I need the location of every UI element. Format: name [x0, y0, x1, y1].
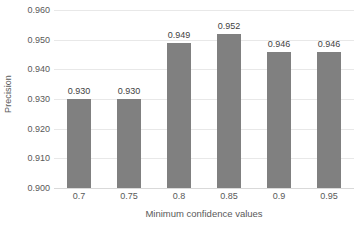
bar-group[interactable]: 0.946 — [304, 10, 354, 188]
x-axis-tick-label: 0.7 — [73, 190, 86, 202]
bar[interactable] — [167, 43, 191, 188]
y-axis-tick-label: 0.940 — [27, 64, 50, 74]
bar-value-label: 0.946 — [318, 39, 341, 49]
bar[interactable] — [217, 34, 241, 188]
x-axis-title: Minimum confidence values — [54, 208, 354, 219]
bar-group[interactable]: 0.930 — [54, 10, 104, 188]
x-axis-tick-label: 0.8 — [173, 190, 186, 202]
x-axis-tick-label: 0.9 — [273, 190, 286, 202]
bar-value-label: 0.949 — [168, 30, 191, 40]
bar[interactable] — [67, 99, 91, 188]
y-axis-tick-label: 0.900 — [27, 183, 50, 193]
bar-chart: Precision 0.9600.9500.9400.9300.9200.910… — [0, 0, 364, 228]
bar[interactable] — [317, 52, 341, 188]
y-axis-tick-label: 0.920 — [27, 124, 50, 134]
bars-layer: 0.9300.9300.9490.9520.9460.946 — [54, 10, 354, 188]
bar-group[interactable]: 0.952 — [204, 10, 254, 188]
gridline — [54, 188, 354, 189]
y-axis-tick-labels: 0.9600.9500.9400.9300.9200.9100.900 — [14, 0, 52, 188]
bar[interactable] — [117, 99, 141, 188]
x-axis-tick-label: 0.85 — [220, 190, 238, 202]
y-axis-tick-label: 0.950 — [27, 35, 50, 45]
bar-value-label: 0.946 — [268, 39, 291, 49]
bar-group[interactable]: 0.946 — [254, 10, 304, 188]
bar-value-label: 0.930 — [118, 86, 141, 96]
bar-group[interactable]: 0.930 — [104, 10, 154, 188]
bar-value-label: 0.952 — [218, 21, 241, 31]
y-axis-title-text: Precision — [3, 75, 13, 113]
plot-area: 0.9300.9300.9490.9520.9460.946 — [54, 10, 354, 188]
bar[interactable] — [267, 52, 291, 188]
x-axis-tick-label: 0.95 — [320, 190, 338, 202]
bar-value-label: 0.930 — [68, 86, 91, 96]
y-axis-tick-label: 0.930 — [27, 94, 50, 104]
x-axis-tick-labels: 0.70.750.80.850.90.95 — [54, 190, 354, 204]
y-axis-tick-label: 0.910 — [27, 153, 50, 163]
bar-group[interactable]: 0.949 — [154, 10, 204, 188]
y-axis-tick-label: 0.960 — [27, 5, 50, 15]
x-axis-tick-label: 0.75 — [120, 190, 138, 202]
